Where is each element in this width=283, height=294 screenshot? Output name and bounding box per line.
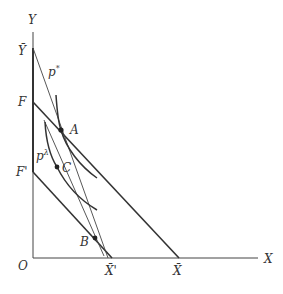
p-lambda-label: pλ [36,148,49,163]
p-star-label: p* [48,64,60,79]
point-c-label: C [62,161,71,175]
point-a-label: A [69,123,79,137]
point-b-label: B [79,235,89,249]
budget-line-f [33,102,179,258]
f-prime-label: F' [15,165,28,179]
x-bar-prime-label: X̄' [104,263,117,278]
point-a [58,127,63,132]
f-label: F [17,95,27,109]
point-c [55,165,60,170]
point-b [93,236,98,241]
economics-diagram: Y X O Ȳ F F' X̄' X̄ p* pλ A C B [0,0,283,294]
y-axis-label: Y [28,13,37,27]
y-bar-label: Ȳ [18,43,27,58]
x-bar-label: X̄ [172,263,182,278]
x-axis-label: X [263,252,273,266]
origin-label: O [18,259,28,273]
